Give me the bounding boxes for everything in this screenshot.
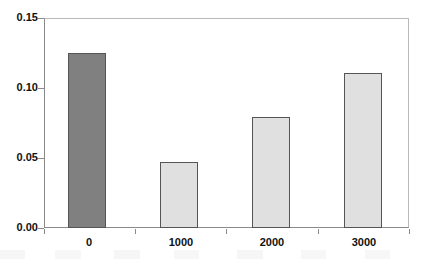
- x-axis-tick-label-0: 0: [59, 236, 119, 248]
- x-axis-tick-mark-boundary-3: [318, 229, 319, 234]
- bar-category-3: [344, 73, 382, 228]
- bar-category-2: [252, 117, 290, 228]
- bar-chart: 0.15 0.10 0.05 0.00 0 1000 2000 3000: [0, 0, 424, 259]
- y-axis-tick-label-3: 0.15: [2, 11, 38, 23]
- x-axis-tick-label-2: 2000: [242, 236, 302, 248]
- bar-category-0: [68, 53, 106, 228]
- y-axis-tick-label-1: 0.05: [2, 151, 38, 163]
- y-axis-tick-mark-2: [38, 88, 44, 89]
- y-axis-tick-mark-1: [38, 158, 44, 159]
- x-axis-tick-label-3: 3000: [334, 236, 394, 248]
- x-axis-tick-mark-boundary-1: [135, 229, 136, 234]
- x-axis-tick-mark-boundary-0: [44, 229, 45, 234]
- bar-category-1: [160, 162, 198, 228]
- y-axis-tick-mark-3: [38, 18, 44, 19]
- y-axis-tick-label-0: 0.00: [2, 221, 38, 233]
- scan-noise-artifact: [0, 250, 424, 259]
- x-axis-tick-mark-boundary-2: [226, 229, 227, 234]
- y-axis-tick-label-2: 0.10: [2, 81, 38, 93]
- x-axis-tick-label-1: 1000: [151, 236, 211, 248]
- x-axis-tick-mark-boundary-4: [409, 229, 410, 234]
